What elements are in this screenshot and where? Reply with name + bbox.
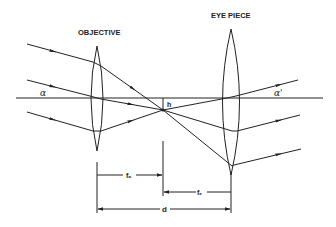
d-label: d <box>162 205 167 214</box>
ray-arrow-4 <box>132 88 133 89</box>
ray-to-eyepiece-bottom <box>163 110 232 166</box>
focal-point <box>161 108 164 111</box>
outgoing-ray-top <box>227 80 298 98</box>
ray-to-eyepiece-top <box>163 98 227 110</box>
telescope-diagram: OBJECTIVE EYE PIECE α α' h fₒ fₑ <box>0 0 336 227</box>
h-label: h <box>167 101 171 108</box>
objective-label: OBJECTIVE <box>78 28 121 37</box>
incoming-ray-top <box>27 44 93 62</box>
incoming-ray-mid <box>27 80 90 96</box>
fe-label: fₑ <box>197 189 202 196</box>
ray-top-converge <box>93 62 163 110</box>
outgoing-ray-mid <box>232 115 300 131</box>
eyepiece-label: EYE PIECE <box>211 11 251 20</box>
outgoing-ray-bottom <box>232 149 301 166</box>
eyepiece-lens <box>223 29 240 175</box>
incoming-ray-bottom <box>27 112 93 131</box>
ray-bottom-converge <box>93 110 163 131</box>
fo-label: fₒ <box>126 172 131 179</box>
alpha-label: α <box>40 88 46 98</box>
alpha-prime-label: α' <box>274 88 283 98</box>
ray-to-eyepiece-mid <box>163 110 232 131</box>
